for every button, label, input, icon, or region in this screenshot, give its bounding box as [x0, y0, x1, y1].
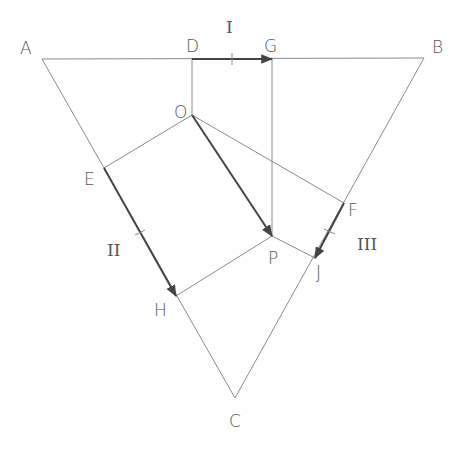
label-j: J: [316, 262, 321, 282]
vector-fj: [315, 203, 344, 258]
label-d: D: [186, 36, 199, 56]
label-b: B: [432, 37, 443, 57]
label-vector-ii: II: [107, 240, 120, 260]
label-g: G: [264, 36, 277, 56]
label-p: P: [268, 248, 278, 268]
label-o: O: [174, 102, 187, 122]
label-vector-i: I: [226, 17, 233, 37]
label-e: E: [84, 169, 95, 189]
label-f: F: [348, 200, 358, 220]
segment-oe: [104, 115, 192, 168]
triangle-abc: [42, 58, 424, 398]
segment-of: [192, 115, 344, 203]
label-h: H: [154, 300, 167, 320]
label-c: C: [229, 411, 241, 431]
segment-pj: [272, 236, 315, 258]
vector-triangle-diagram: A B C D G O E F H P J I II III: [0, 0, 466, 468]
label-a: A: [20, 38, 32, 58]
segment-ph: [176, 236, 272, 296]
vector-op: [192, 115, 272, 236]
label-vector-iii: III: [357, 234, 377, 254]
